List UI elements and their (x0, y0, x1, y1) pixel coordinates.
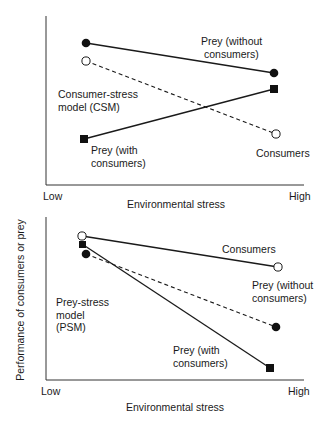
label-consumers: Consumers (256, 147, 310, 159)
model-label-csm: Consumer-stress model (CSM) (58, 88, 141, 113)
x-tick-low: Low (43, 190, 63, 202)
label-prey-without-consumers: Prey (without consumers) (252, 279, 316, 304)
filled-square-marker (80, 135, 88, 143)
filled-circle-marker (272, 323, 281, 332)
label-prey-without-consumers: Prey (without consumers) (201, 35, 265, 60)
open-circle-marker (274, 263, 282, 271)
x-tick-low: Low (41, 385, 61, 397)
filled-square-marker (270, 85, 278, 93)
x-tick-high: High (289, 190, 311, 202)
x-axis-label: Environmental stress (126, 401, 224, 413)
open-circle-marker (82, 57, 90, 65)
filled-circle-marker (82, 250, 91, 259)
model-label-psm: Prey-stress model (PSM) (56, 296, 112, 333)
y-axis-label: Performance of consumers or prey (14, 218, 26, 380)
filled-circle-marker (82, 39, 91, 48)
label-prey-with-consumers: Prey (with consumers) (91, 144, 146, 169)
filled-square-marker (266, 364, 274, 372)
panel-psm: Low High Environmental stress Consumers … (41, 217, 316, 413)
label-prey-with-consumers: Prey (with consumers) (173, 344, 228, 369)
panel-csm: Low High Environmental stress Prey (with… (43, 16, 311, 210)
x-axis-label: Environmental stress (127, 198, 225, 210)
filled-square-marker (79, 241, 86, 248)
open-circle-marker (272, 130, 280, 138)
x-tick-high: High (288, 385, 310, 397)
label-consumers: Consumers (222, 243, 276, 255)
open-circle-marker (78, 232, 86, 240)
figure-canvas: Performance of consumers or prey Low Hig… (0, 0, 324, 428)
filled-circle-marker (270, 69, 279, 78)
